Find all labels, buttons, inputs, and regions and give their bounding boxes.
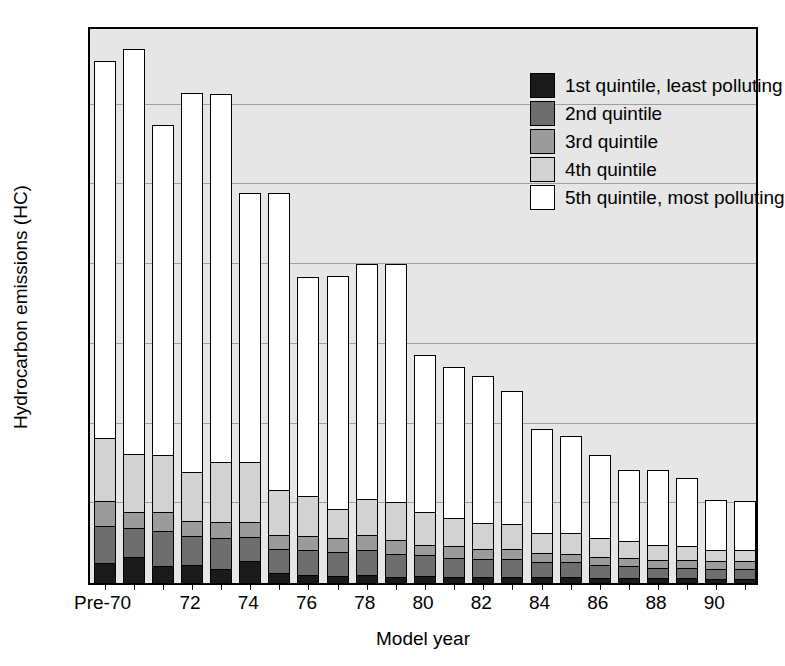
bar[interactable] (181, 93, 203, 583)
x-tick-mark (192, 583, 193, 590)
x-tick-label: 72 (179, 592, 200, 614)
bar-segment-q3 (589, 557, 611, 566)
legend-swatch-icon (530, 129, 555, 154)
x-tick-label: Pre-70 (74, 592, 131, 614)
bar-segment-q2 (647, 568, 669, 578)
x-tick-mark (745, 583, 746, 590)
bar-segment-q2 (94, 526, 116, 563)
bar[interactable] (647, 470, 669, 583)
bar-segment-q2 (385, 554, 407, 577)
bar-segment-q5 (531, 429, 553, 533)
bar-segment-q2 (297, 550, 319, 576)
bar[interactable] (560, 436, 582, 583)
bar-segment-q5 (472, 376, 494, 523)
x-tick-mark (250, 583, 251, 590)
bar[interactable] (531, 429, 553, 583)
bar[interactable] (734, 501, 756, 583)
bar[interactable] (501, 391, 523, 583)
bar[interactable] (210, 94, 232, 583)
legend-label: 5th quintile, most polluting (565, 188, 785, 207)
bar[interactable] (589, 455, 611, 583)
bar-segment-q4 (501, 524, 523, 549)
plot-area: 1st quintile, least polluting2nd quintil… (88, 27, 758, 585)
bar[interactable] (152, 125, 174, 583)
bar-segment-q5 (560, 436, 582, 533)
bar-segment-q2 (589, 565, 611, 578)
bar-segment-q1 (356, 575, 378, 583)
bar-segment-q4 (705, 550, 727, 562)
x-tick-mark (367, 583, 368, 590)
bar-segment-q3 (356, 535, 378, 549)
x-tick-mark (483, 583, 484, 590)
bar[interactable] (297, 277, 319, 583)
bar-segment-q1 (414, 576, 436, 583)
bar-segment-q2 (327, 552, 349, 576)
bar-segment-q3 (618, 558, 640, 567)
bar-segment-q4 (589, 538, 611, 557)
bar-segment-q4 (239, 462, 261, 522)
bar-segment-q4 (618, 541, 640, 558)
bar-segment-q4 (356, 499, 378, 535)
legend-item[interactable]: 1st quintile, least polluting (530, 73, 785, 98)
bar-segment-q3 (297, 536, 319, 550)
x-tick-mark (338, 583, 339, 590)
bar[interactable] (94, 61, 116, 583)
x-tick-label: 84 (529, 592, 550, 614)
bar-segment-q1 (210, 569, 232, 583)
bar-segment-q4 (94, 438, 116, 501)
bar[interactable] (443, 367, 465, 583)
bar-segment-q5 (501, 391, 523, 524)
bar-segment-q4 (152, 455, 174, 512)
bar-segment-q5 (356, 264, 378, 499)
bar-segment-q3 (676, 560, 698, 568)
legend-label: 1st quintile, least polluting (565, 76, 783, 95)
legend-item[interactable]: 2nd quintile (530, 101, 785, 126)
bar-segment-q3 (414, 545, 436, 555)
bar-segment-q4 (385, 502, 407, 540)
x-tick-mark (658, 583, 659, 590)
bar-segment-q1 (239, 561, 261, 583)
x-tick-mark (600, 583, 601, 590)
bar-segment-q3 (94, 501, 116, 526)
bar-segment-q2 (239, 537, 261, 561)
bar-segment-q1 (123, 557, 145, 583)
legend-item[interactable]: 4th quintile (530, 157, 785, 182)
x-tick-label: 82 (471, 592, 492, 614)
bar-segment-q3 (385, 540, 407, 554)
bar-segment-q1 (94, 563, 116, 583)
bar-segment-q4 (327, 509, 349, 538)
bar-segment-q3 (647, 560, 669, 568)
bar[interactable] (268, 193, 290, 583)
bar-segment-q5 (414, 355, 436, 512)
bar-segment-q1 (181, 565, 203, 583)
bar[interactable] (676, 478, 698, 583)
legend-swatch-icon (530, 73, 555, 98)
legend-item[interactable]: 3rd quintile (530, 129, 785, 154)
x-tick-mark (105, 583, 106, 590)
bar[interactable] (385, 264, 407, 583)
x-tick-label: 90 (704, 592, 725, 614)
legend-item[interactable]: 5th quintile, most polluting (530, 185, 785, 210)
x-tick-label: 88 (645, 592, 666, 614)
bar-segment-q3 (268, 535, 290, 549)
bar-segment-q4 (210, 462, 232, 522)
x-tick-mark (221, 583, 222, 590)
bar[interactable] (327, 276, 349, 583)
bar[interactable] (239, 193, 261, 583)
bar-segment-q4 (560, 533, 582, 555)
x-tick-label: 76 (296, 592, 317, 614)
legend-label: 4th quintile (565, 160, 657, 179)
bar[interactable] (472, 376, 494, 583)
bar-segment-q4 (472, 523, 494, 549)
bar[interactable] (414, 355, 436, 583)
bar-segment-q2 (705, 569, 727, 579)
legend: 1st quintile, least polluting2nd quintil… (530, 73, 785, 210)
bar-segment-q1 (297, 575, 319, 583)
bar[interactable] (123, 49, 145, 583)
bar[interactable] (356, 264, 378, 583)
bar-segment-q2 (414, 555, 436, 576)
bar[interactable] (618, 470, 640, 583)
bar[interactable] (705, 500, 727, 583)
bar-segment-q4 (676, 546, 698, 560)
